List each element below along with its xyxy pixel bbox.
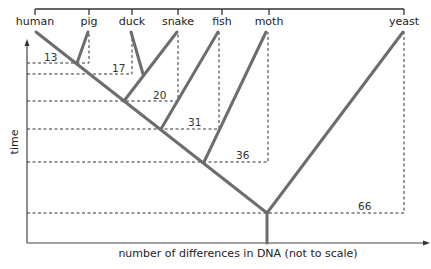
y-axis-label: time <box>8 130 21 155</box>
difference-value-snake: 20 <box>153 90 166 101</box>
tree-graphic <box>0 0 431 269</box>
x-axis-arrow-icon <box>423 241 430 246</box>
taxon-label-pig: pig <box>80 16 97 28</box>
difference-value-yeast: 66 <box>358 201 371 212</box>
taxon-label-yeast: yeast <box>389 16 419 28</box>
phylogenetic-tree-diagram: human pig duck snake fish moth yeast 13 … <box>0 0 431 269</box>
difference-value-fish: 31 <box>188 117 201 128</box>
x-axis-label: number of differences in DNA (not to sca… <box>0 247 431 260</box>
difference-value-moth: 36 <box>236 150 249 161</box>
y-axis-arrow-icon <box>25 39 30 46</box>
tree-branches <box>36 32 403 243</box>
taxon-label-moth: moth <box>255 16 284 28</box>
difference-value-pig: 13 <box>44 52 57 63</box>
taxon-label-snake: snake <box>162 16 194 28</box>
difference-value-duck: 17 <box>112 63 125 74</box>
difference-guides <box>27 32 404 213</box>
taxon-label-duck: duck <box>119 16 145 28</box>
taxon-label-human: human <box>16 16 54 28</box>
taxon-label-fish: fish <box>212 16 232 28</box>
